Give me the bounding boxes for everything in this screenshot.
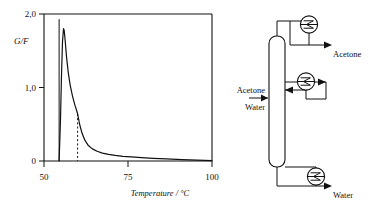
y-tick-label-0: 0 [32,156,37,166]
x-tick-label-75: 75 [124,172,134,182]
data-series-gf [59,29,212,161]
gf-vs-temperature-chart: 2,0 1,0 0 G/F 50 75 100 Temperature / °C [0,0,232,212]
x-tick-label-50: 50 [40,172,50,182]
plot-frame [44,14,212,161]
flowsheet-panel: Acetone Water Acetone Water [232,0,370,212]
heat-exchangers [297,16,324,185]
chart-annotations [59,19,77,161]
y-tick-label-1: 1,0 [25,83,37,93]
y-tick-label-2: 2,0 [25,9,37,19]
y-axis-title: G/F [14,36,29,46]
stream-label-product-water: Water [333,190,353,200]
arrow-sidedraw-return [285,86,293,93]
stream-label-feed-water: Water [245,102,265,112]
x-axis-ticks [44,161,212,167]
arrow-feed-in [261,95,268,102]
arrow-sidedraw-out [318,78,326,85]
x-axis-title: Temperature / °C [131,188,190,198]
distillation-column [269,36,285,167]
stream-label-product-acetone: Acetone [333,49,362,59]
side-heat-exchanger [297,73,314,90]
chart-panel: 2,0 1,0 0 G/F 50 75 100 Temperature / °C [0,0,232,212]
reboiler-bottom [307,168,324,185]
condenser-top [300,16,317,33]
y-axis-ticks [39,14,44,161]
distillation-flowsheet: Acetone Water Acetone Water [232,0,370,212]
figure-root: 2,0 1,0 0 G/F 50 75 100 Temperature / °C [0,0,370,212]
x-tick-label-100: 100 [205,172,219,182]
arrow-acetone-out [324,41,332,48]
stream-label-feed-acetone: Acetone [237,85,266,95]
arrow-water-out [324,182,332,189]
